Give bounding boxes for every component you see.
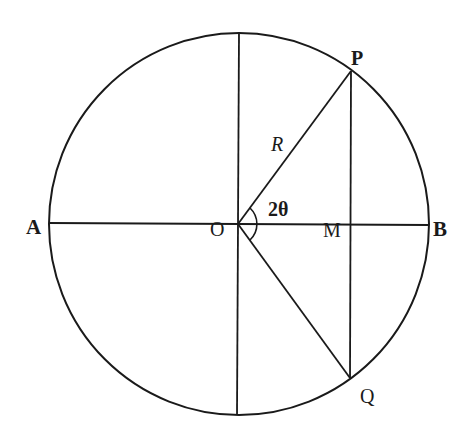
label-radius-R: R: [270, 133, 283, 155]
chord-PQ: [350, 71, 351, 378]
label-O: O: [210, 218, 224, 240]
geometry-diagram: A B O P Q M R 2θ: [0, 0, 472, 433]
label-B: B: [433, 217, 447, 241]
radius-OQ: [238, 224, 350, 378]
label-P: P: [351, 47, 363, 69]
radius-OP: [238, 71, 351, 224]
label-angle-2theta: 2θ: [268, 198, 288, 220]
label-M: M: [323, 219, 341, 241]
label-A: A: [26, 215, 42, 239]
diagram-canvas: A B O P Q M R 2θ: [0, 0, 472, 433]
label-Q: Q: [360, 385, 375, 407]
